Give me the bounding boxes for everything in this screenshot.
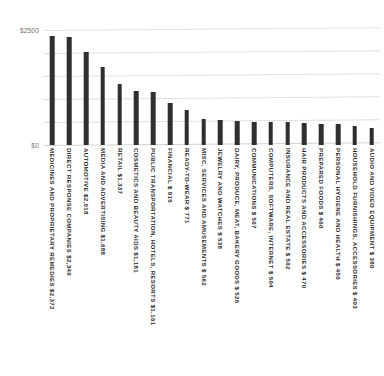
bar — [302, 123, 307, 145]
bar — [218, 120, 223, 145]
bar-series — [44, 30, 380, 145]
category-label: PERSONAL HYGIENE AND HEALTH $ 450 — [335, 148, 341, 280]
y-axis-tick-label: $2500 — [20, 27, 39, 34]
bar — [50, 36, 55, 145]
category-label: INSURANCE AND REAL ESTATE $ 502 — [285, 148, 291, 270]
bar-chart: $0$2500 MEDICINES AND PROPRIETARY REMEDI… — [0, 0, 384, 376]
bar — [235, 121, 240, 145]
category-label: FINANCIAL $ 915 — [167, 148, 173, 203]
category-axis-labels: MEDICINES AND PROPRIETARY REMEDIES $2,37… — [44, 148, 380, 374]
category-label: PUBLIC TRANSPORTATION, HOTELS, RESORTS $… — [150, 148, 156, 325]
category-label: COSMETICS AND BEAUTY AIDS $1,181 — [133, 148, 139, 273]
bar — [252, 122, 257, 145]
bar — [101, 67, 106, 145]
category-label: COMPUTERS, SOFTWARE, INTERNET $ 504 — [268, 148, 274, 288]
category-label: READY-TO-WEAR $ 771 — [184, 148, 190, 224]
category-label: MISC. SERVICES AND AMUSEMENTS $ 562 — [201, 148, 207, 286]
bar — [185, 110, 190, 145]
bar — [117, 84, 122, 146]
category-label: AUTOMOTIVE $2,018 — [83, 148, 89, 215]
bar — [319, 124, 324, 145]
bar — [369, 128, 374, 145]
bar — [168, 103, 173, 145]
category-label: HAIR PRODUCTS AND ACCESSORIES $ 470 — [301, 148, 307, 288]
category-label: RETAIL $1,337 — [117, 148, 123, 194]
plot-area: $0$2500 — [44, 30, 380, 145]
bar — [336, 124, 341, 145]
bar — [201, 119, 206, 145]
bar — [67, 37, 72, 145]
category-label: DIRECT RESPONSE COMPANIES $2,340 — [66, 148, 72, 276]
category-label: PREPARED FOODS $ 460 — [318, 148, 324, 229]
category-label: MEDICINES AND PROPRIETARY REMEDIES $2,37… — [49, 148, 55, 310]
bar — [151, 92, 156, 145]
category-label: COMMUNICATIONS $ 507 — [251, 148, 257, 229]
bar — [269, 122, 274, 145]
category-label: DAIRY, PRODUCE, MEAT, BAKERY GOODS $ 526 — [234, 148, 240, 304]
bar — [285, 122, 290, 145]
bar — [353, 126, 358, 145]
category-label: MEDIA AND ADVERTISING $1,688 — [100, 148, 106, 255]
category-label: HOUSEHOLD FURNISHINGS, ACCESSORIES $ 403 — [352, 148, 358, 309]
bar — [84, 52, 89, 145]
category-label: JEWELRY AND WATCHES $ 538 — [217, 148, 223, 249]
y-axis-tick-label: $0 — [31, 142, 39, 149]
category-label: AUDIO AND VIDEO EQUIPMENT $ 380 — [369, 148, 375, 269]
bar — [134, 91, 139, 145]
